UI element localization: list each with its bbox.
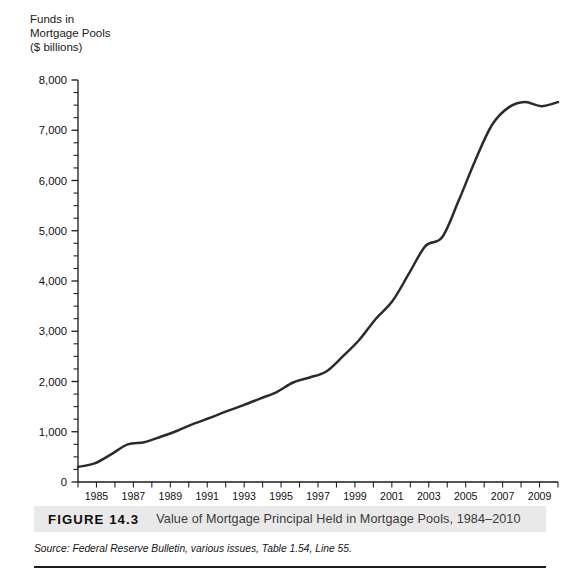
y-tick-label: 5,000 — [39, 225, 67, 237]
x-tick-label: 1989 — [159, 490, 183, 502]
figure-number: FIGURE 14.3 — [48, 512, 139, 527]
x-tick-label: 1997 — [306, 490, 330, 502]
x-tick-label: 2003 — [417, 490, 441, 502]
line-chart-plot: 01,0002,0003,0004,0005,0006,0007,0008,00… — [0, 0, 577, 580]
x-tick-label: 1993 — [232, 490, 256, 502]
series-line-funds-in-mortgage-pools — [78, 102, 558, 467]
x-tick-label: 2001 — [380, 490, 404, 502]
x-axis: 1985198719891991199319951997199920012003… — [78, 482, 558, 502]
bottom-divider — [34, 566, 546, 568]
y-tick-label: 6,000 — [39, 175, 67, 187]
source-text: Federal Reserve Bulletin, various issues… — [72, 543, 352, 554]
figure-caption: FIGURE 14.3 Value of Mortgage Principal … — [34, 506, 546, 532]
x-tick-label: 1995 — [269, 490, 293, 502]
x-tick-label: 2009 — [528, 490, 552, 502]
figure-container: Funds in Mortgage Pools ($ billions) 01,… — [0, 0, 577, 580]
y-tick-label: 1,000 — [39, 426, 67, 438]
y-axis: 01,0002,0003,0004,0005,0006,0007,0008,00… — [39, 74, 78, 488]
source-note: Source: Federal Reserve Bulletin, variou… — [34, 543, 352, 554]
x-tick-label: 1991 — [195, 490, 219, 502]
x-tick-label: 1985 — [85, 490, 109, 502]
y-tick-label: 2,000 — [39, 376, 67, 388]
x-tick-label: 2005 — [454, 490, 478, 502]
y-tick-label: 3,000 — [39, 325, 67, 337]
x-tick-label: 2007 — [491, 490, 515, 502]
y-tick-label: 4,000 — [39, 275, 67, 287]
y-tick-label: 8,000 — [39, 74, 67, 86]
x-tick-label: 1999 — [343, 490, 367, 502]
data-series-group — [78, 102, 558, 467]
figure-caption-text: Value of Mortgage Principal Held in Mort… — [156, 512, 520, 526]
y-tick-label: 0 — [61, 476, 67, 488]
source-label: Source: — [34, 543, 70, 554]
y-tick-label: 7,000 — [39, 124, 67, 136]
x-tick-label: 1987 — [122, 490, 146, 502]
